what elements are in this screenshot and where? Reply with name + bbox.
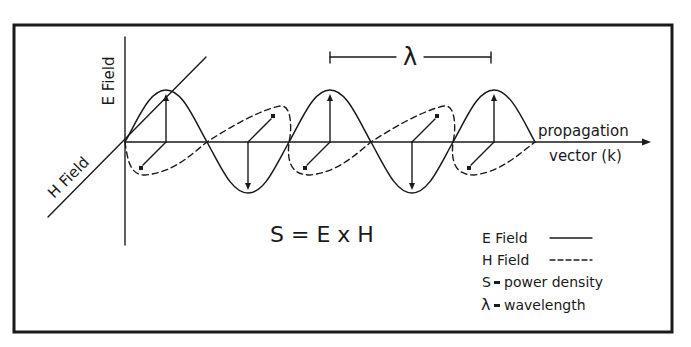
legend-lambda-symbol: λ [481,295,490,314]
legend-h-field: H Field [482,252,529,268]
legend-lambda-desc: wavelength [504,297,586,313]
arrow-tip-icon [139,166,143,170]
arrow-tip-icon [435,114,439,118]
legend-equals-bar [494,281,500,284]
arrow-tip-icon [303,166,307,170]
e-field-axis-label: E Field [100,57,118,106]
poynting-equation: S = E x H [270,222,374,247]
legend-equals-bar [494,304,500,307]
propagation-label-line1: propagation [538,122,629,140]
legend-s-symbol: S [482,274,491,290]
legend-s-desc: power density [504,274,603,290]
em-wave-diagram: λ E Field H Field propagation vector (k)… [0,0,691,347]
arrow-tip-icon [467,166,471,170]
arrow-tip-icon [271,114,275,118]
legend-e-field: E Field [482,230,528,246]
propagation-label-line2: vector (k) [549,147,622,165]
wavelength-symbol: λ [403,43,417,71]
